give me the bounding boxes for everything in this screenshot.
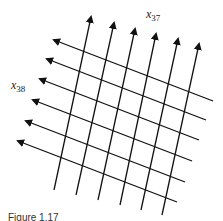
label-x37-sub: 37 — [151, 13, 160, 23]
label-x37: x37 — [146, 7, 160, 23]
figure-caption: Figure 1.17 — [8, 212, 59, 221]
coordinate-grid-diagram — [0, 0, 223, 221]
label-x38-sub: 38 — [16, 84, 25, 94]
label-x38: x38 — [11, 78, 25, 94]
